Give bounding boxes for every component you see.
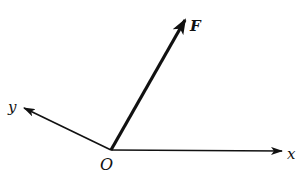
x-axis <box>111 150 282 151</box>
vector-diagram: x y F O <box>0 0 305 186</box>
x-axis-label: x <box>287 145 296 163</box>
y-axis-label: y <box>7 98 17 116</box>
origin-label: O <box>100 155 113 174</box>
force-vector-label: F <box>189 17 202 35</box>
y-axis <box>24 108 111 150</box>
force-vector-f <box>111 20 185 150</box>
